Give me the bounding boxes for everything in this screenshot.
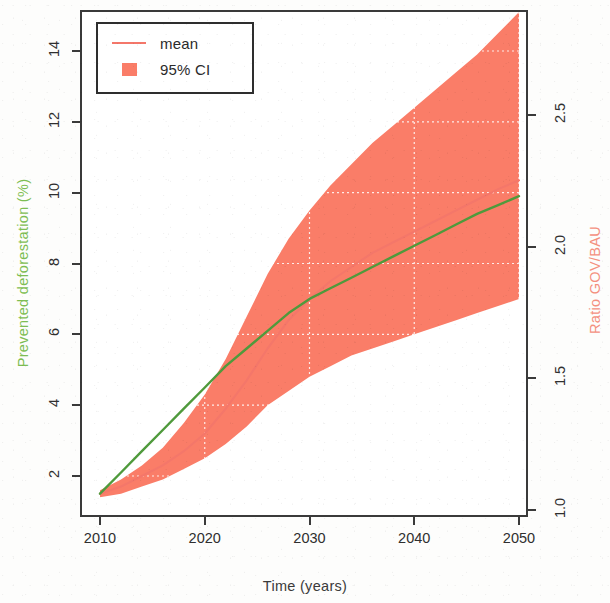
y-axis-left-tick-label: 6 [46,312,62,352]
y-axis-left-tick-label: 4 [46,383,62,423]
legend-label-mean: mean [160,35,198,52]
legend-label-ci: 95% CI [160,61,210,78]
y-axis-right-tick-label: 1.5 [552,356,568,396]
y-axis-right-title: Ratio GOV/BAU [587,165,603,395]
y-axis-left-tick-label: 12 [46,100,62,140]
x-axis-tick [99,517,101,525]
y-axis-left-tick-label: 10 [46,171,62,211]
chart-figure: Prevented deforestation (%) Ratio GOV/BA… [0,0,610,603]
x-axis-tick [518,517,520,525]
y-axis-right-tick [528,509,536,511]
y-axis-left-tick [72,192,80,194]
y-axis-right-tick-label: 1.0 [552,488,568,528]
legend-line-swatch-icon [98,42,160,44]
y-axis-left-title: Prevented deforestation (%) [15,158,31,388]
x-axis-tick [309,517,311,525]
x-axis-tick-label: 2020 [178,530,232,546]
x-axis-tick-label: 2050 [492,530,546,546]
y-axis-right-tick [528,377,536,379]
x-axis-tick-label: 2010 [73,530,127,546]
x-axis-tick [413,517,415,525]
y-axis-left-tick [72,475,80,477]
y-axis-right-tick [528,246,536,248]
y-axis-right-tick [528,114,536,116]
legend-item-mean: mean [98,30,252,56]
y-axis-left-tick [72,50,80,52]
y-axis-left-tick-label: 14 [46,29,62,69]
chart-legend: mean 95% CI [96,22,254,94]
legend-item-ci: 95% CI [98,56,252,82]
y-axis-left-tick-label: 8 [46,242,62,282]
y-axis-left-tick [72,333,80,335]
y-axis-left-tick [72,404,80,406]
x-axis-tick-label: 2040 [387,530,441,546]
legend-square-swatch-icon [98,63,160,76]
y-axis-left-tick [72,263,80,265]
x-axis-tick [204,517,206,525]
x-axis-title: Time (years) [0,578,610,594]
y-axis-left-tick [72,121,80,123]
y-axis-right-tick-label: 2.5 [552,93,568,133]
y-axis-left-tick-label: 2 [46,454,62,494]
y-axis-right-tick-label: 2.0 [552,225,568,265]
x-axis-tick-label: 2030 [283,530,337,546]
